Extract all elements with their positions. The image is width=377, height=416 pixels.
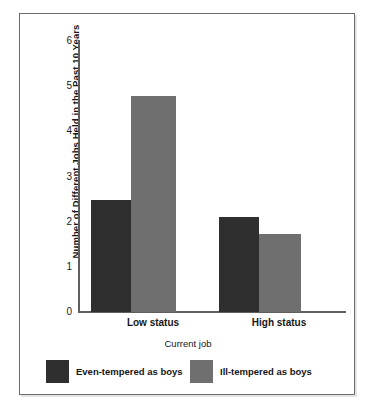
bar-high-status-even-tempered — [219, 217, 259, 312]
x-tick-label-low-status: Low status — [127, 317, 179, 328]
figure-frame: Number of Different Jobs Held in the Pas… — [19, 13, 355, 395]
legend-label-even-tempered: Even-tempered as boys — [76, 366, 183, 377]
legend-item-even-tempered: Even-tempered as boys — [46, 360, 183, 383]
bar-low-status-even-tempered — [91, 200, 131, 312]
legend-swatch-icon-ill-tempered — [190, 360, 213, 383]
legend-swatch-icon-even-tempered — [46, 360, 69, 383]
x-tick-label-high-status: High status — [252, 317, 306, 328]
legend-label-ill-tempered: Ill-tempered as boys — [220, 366, 312, 377]
bar-low-status-ill-tempered — [131, 96, 176, 312]
legend-item-ill-tempered: Ill-tempered as boys — [190, 360, 312, 383]
bar-high-status-ill-tempered — [259, 234, 301, 312]
chart-plot-area: Number of Different Jobs Held in the Pas… — [20, 14, 356, 396]
x-axis-title: Current job — [20, 338, 356, 349]
chart-legend: Even-tempered as boys Ill-tempered as bo… — [20, 360, 356, 392]
